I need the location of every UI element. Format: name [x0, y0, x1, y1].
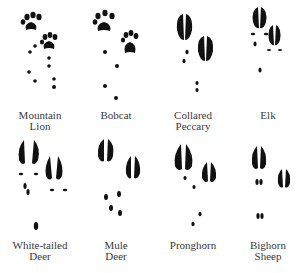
bobcat-tracks-icon	[78, 0, 154, 105]
bighorn-sheep-tracks-icon	[230, 136, 306, 241]
label-pronghorn: Pronghorn	[155, 240, 231, 251]
label-mule-deer: Mule Deer	[78, 240, 154, 262]
label-elk: Elk	[230, 110, 306, 121]
mountain-lion-tracks-icon	[2, 0, 78, 105]
label-white-tailed-deer: White-tailed Deer	[2, 240, 78, 262]
label-bobcat: Bobcat	[78, 110, 154, 121]
label-line-1: Pronghorn	[155, 240, 231, 251]
panel-collared-peccary: Collared Peccary	[155, 0, 231, 136]
label-line-2: Lion	[2, 121, 78, 132]
mule-deer-tracks-icon	[78, 136, 154, 241]
elk-tracks-icon	[230, 0, 306, 105]
panel-white-tailed-deer: White-tailed Deer	[2, 136, 78, 273]
panel-elk: Elk	[230, 0, 306, 136]
panel-pronghorn: Pronghorn	[155, 136, 231, 273]
label-line-1: Elk	[230, 110, 306, 121]
label-bighorn-sheep: Bighorn Sheep	[230, 240, 306, 262]
label-collared-peccary: Collared Peccary	[155, 110, 231, 132]
label-line-2: Deer	[2, 251, 78, 262]
white-tailed-deer-tracks-icon	[2, 136, 78, 241]
label-line-1: Bobcat	[78, 110, 154, 121]
panel-bobcat: Bobcat	[78, 0, 154, 136]
panel-mountain-lion: Mountain Lion	[2, 0, 78, 136]
label-mountain-lion: Mountain Lion	[2, 110, 78, 132]
panel-mule-deer: Mule Deer	[78, 136, 154, 273]
pronghorn-tracks-icon	[155, 136, 231, 241]
panel-bighorn-sheep: Bighorn Sheep	[230, 136, 306, 273]
collared-peccary-tracks-icon	[155, 0, 231, 105]
label-line-2: Sheep	[230, 251, 306, 262]
label-line-2: Deer	[78, 251, 154, 262]
label-line-2: Peccary	[155, 121, 231, 132]
